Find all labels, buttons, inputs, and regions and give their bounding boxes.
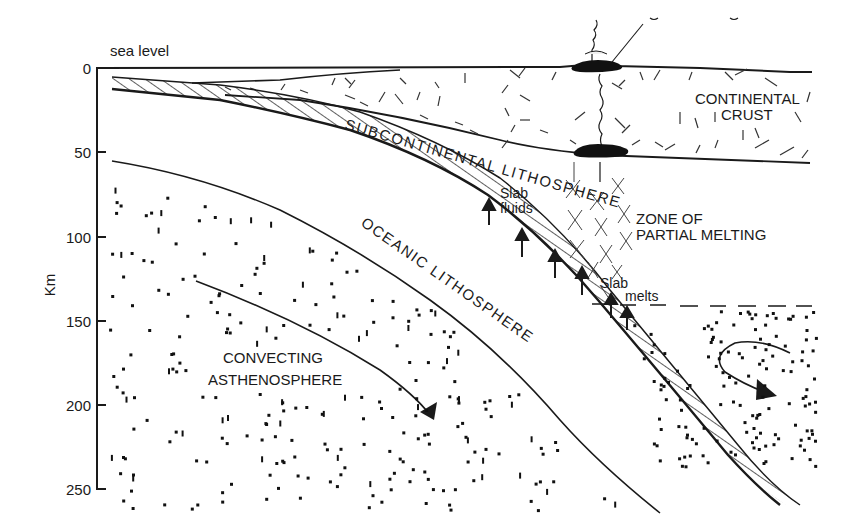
tick-250: 250 bbox=[66, 481, 91, 498]
top-mark-1 bbox=[650, 18, 658, 20]
tick-100: 100 bbox=[66, 229, 91, 246]
tick-200: 200 bbox=[66, 397, 91, 414]
slab-fluids-label-2: fluids bbox=[500, 200, 533, 216]
tick-0: 0 bbox=[83, 60, 91, 77]
upper-magma-chamber bbox=[571, 60, 622, 72]
axis-label-km: Km bbox=[41, 274, 58, 297]
lower-magma-chamber bbox=[574, 144, 629, 158]
continental-crust-label-1: CONTINENTAL bbox=[695, 90, 800, 107]
wedge-convection-arrow bbox=[719, 342, 790, 392]
slab-melts-label-2: melts bbox=[625, 288, 658, 304]
oceanic-lithosphere-base bbox=[112, 161, 660, 513]
tick-50: 50 bbox=[74, 144, 91, 161]
asthenosphere-arrowhead-icon bbox=[420, 402, 437, 420]
continental-crust-label-2: CRUST bbox=[721, 106, 773, 123]
subduction-diagram: sea level 0 50 100 150 200 250 Km bbox=[0, 0, 863, 528]
asthenosphere-label-2: ASTHENOSPHERE bbox=[208, 371, 342, 388]
zone-partial-melting-label-2: PARTIAL MELTING bbox=[636, 226, 766, 243]
leader-line bbox=[612, 24, 643, 62]
asthenosphere-label-1: CONVECTING bbox=[223, 349, 323, 366]
volcano-cone bbox=[585, 51, 607, 54]
subcontinental-lithosphere-label: SUBCONTINENTAL LITHOSPHERE bbox=[343, 116, 622, 211]
magma-conduit bbox=[592, 20, 603, 182]
surface-line bbox=[97, 64, 812, 72]
oceanic-lithosphere-label: OCEANIC LITHOSPHERE bbox=[358, 214, 536, 346]
top-mark-2 bbox=[730, 18, 738, 20]
melt-level-dashed-line bbox=[592, 304, 812, 306]
slab-fluids-label-1: Slab bbox=[500, 185, 528, 201]
asthenosphere-convection-arrow bbox=[196, 281, 430, 415]
wedge-arrowhead-icon bbox=[756, 379, 777, 400]
zone-partial-melting-label-1: ZONE OF bbox=[636, 210, 703, 227]
tick-150: 150 bbox=[66, 313, 91, 330]
slab-melts-label-1: Slab bbox=[600, 275, 628, 291]
sea-level-label: sea level bbox=[110, 42, 169, 59]
depth-axis bbox=[97, 67, 106, 490]
continental-crust-top bbox=[192, 70, 400, 83]
